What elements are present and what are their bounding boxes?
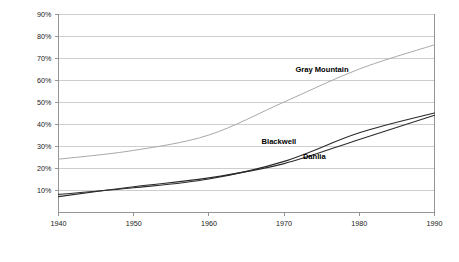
y-tick-label-80%: 80% (37, 32, 52, 41)
y-tick-labels-group: 10%20%30%40%50%60%70%80%90% (37, 10, 58, 195)
y-tick-label-90%: 90% (37, 10, 52, 19)
series-group (59, 45, 435, 197)
y-tick-label-70%: 70% (37, 54, 52, 63)
series-annotation-gray-mountain: Gray Mountain (295, 65, 349, 74)
series-annotation-blackwell: Blackwell (262, 137, 297, 146)
gridlines-group (59, 14, 435, 190)
y-tick-label-20%: 20% (37, 164, 52, 173)
series-line-blackwell (59, 113, 435, 194)
y-tick-label-10%: 10% (37, 186, 52, 195)
x-tick-label-1940: 1940 (51, 219, 67, 228)
series-annotation-dahlia: Dahlia (303, 152, 327, 161)
y-tick-label-60%: 60% (37, 76, 52, 85)
x-tick-labels-group: 194019501960197019801990 (51, 219, 443, 228)
y-tick-label-40%: 40% (37, 120, 52, 129)
x-tick-label-1950: 1950 (126, 219, 142, 228)
axes-group (59, 14, 435, 213)
line-chart-container: 10%20%30%40%50%60%70%80%90% 194019501960… (0, 0, 459, 262)
chart-canvas: 10%20%30%40%50%60%70%80%90% 194019501960… (0, 0, 459, 262)
x-tick-label-1990: 1990 (427, 219, 443, 228)
x-tick-label-1980: 1980 (351, 219, 367, 228)
y-tick-label-50%: 50% (37, 98, 52, 107)
x-tick-label-1960: 1960 (201, 219, 217, 228)
y-tick-label-30%: 30% (37, 142, 52, 151)
x-tick-label-1970: 1970 (276, 219, 292, 228)
x-tick-marks-group (59, 212, 435, 216)
